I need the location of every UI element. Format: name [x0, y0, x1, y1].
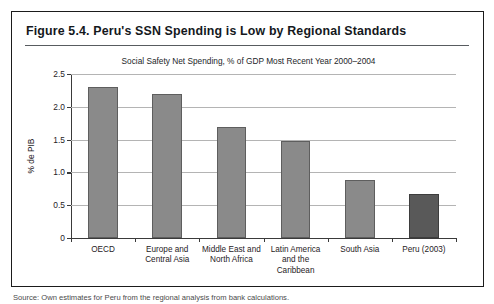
x-axis-tick [328, 238, 329, 242]
y-axis-tick [67, 205, 71, 206]
plot-area: 00.51.01.52.02.5OECDEurope andCentral As… [71, 74, 456, 238]
bar-south-asia[interactable] [345, 180, 375, 238]
x-axis-tick [456, 238, 457, 242]
x-axis-category-label: Peru (2003) [381, 245, 467, 255]
chart-subtitle: Social Safety Net Spending, % of GDP Mos… [12, 56, 485, 66]
gridline [71, 172, 456, 173]
y-axis-tick-label: 0.5 [53, 200, 65, 210]
y-axis-tick-label: 1.0 [53, 167, 65, 177]
y-axis-tick [67, 140, 71, 141]
bar-oecd[interactable] [88, 87, 118, 238]
gridline [71, 107, 456, 108]
gridline [71, 140, 456, 141]
source-note: Source: Own estimates for Peru from the … [13, 293, 483, 302]
bar-peru-2003[interactable] [409, 194, 439, 238]
y-axis-tick-label: 2.5 [53, 69, 65, 79]
x-axis-tick [392, 238, 393, 242]
x-axis-tick [71, 238, 72, 242]
y-axis-tick-label: 0 [60, 233, 65, 243]
x-axis-tick [264, 238, 265, 242]
y-axis-tick [67, 74, 71, 75]
y-axis-tick [67, 107, 71, 108]
title-divider [25, 45, 469, 46]
figure-title: Figure 5.4. Peru's SSN Spending is Low b… [26, 24, 406, 38]
x-axis-tick [199, 238, 200, 242]
figure-frame: Figure 5.4. Peru's SSN Spending is Low b… [11, 11, 484, 287]
gridline [71, 205, 456, 206]
gridline [71, 74, 456, 75]
y-axis-tick-label: 1.5 [53, 135, 65, 145]
y-axis-tick-label: 2.0 [53, 102, 65, 112]
bar-europe-and-central-asia[interactable] [152, 94, 182, 238]
y-axis-title: % de PIB [26, 139, 36, 174]
y-axis-tick [67, 172, 71, 173]
bar-latin-america-and-the-caribbean[interactable] [281, 141, 311, 238]
x-axis-tick [135, 238, 136, 242]
bar-middle-east-and-north-africa[interactable] [217, 127, 247, 238]
